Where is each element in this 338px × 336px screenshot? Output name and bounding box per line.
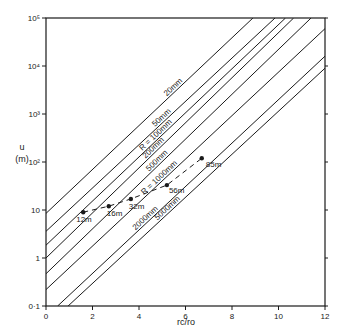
observed-point [107,204,111,208]
plot-frame [46,18,325,306]
y-tick-label: 10² [28,158,40,167]
isoline-group [46,18,325,306]
observed-point [200,156,204,160]
y-axis: 0·111010²10³10⁴10⁵ [28,14,328,311]
y-axis-unit: (m) [15,154,29,164]
isoline [46,18,311,274]
observed-point-label: 32m [129,202,145,211]
observed-point-label: 56m [169,186,185,195]
observed-point-label: 12m [76,215,92,224]
x-tick-label: 4 [137,312,142,321]
y-tick-label: 10⁴ [28,62,41,71]
chart: 12m16m32m56m85m 024681012 0·111010²10³10… [0,0,338,336]
y-tick-label: 10 [31,206,40,215]
observed-point-label: 85m [206,160,222,169]
observed-point [129,197,133,201]
observed-point-label: 16m [107,209,123,218]
x-tick-label: 2 [90,312,95,321]
isoline-label: 20mm [162,76,185,98]
y-tick-label: 10⁵ [28,14,40,23]
observed-point [81,210,85,214]
y-axis-title: u [19,142,24,152]
isoline [58,56,325,306]
x-axis-title: rc/ro [177,317,195,327]
isoline-label: 5000mm [153,194,182,222]
y-tick-label: 0·1 [28,302,40,311]
y-tick-label: 1 [36,254,41,263]
x-tick-label: 8 [230,312,235,321]
x-tick-label: 12 [321,312,330,321]
isoline [46,29,325,290]
chart-svg: 12m16m32m56m85m 024681012 0·111010²10³10… [0,0,338,336]
x-tick-label: 0 [44,312,49,321]
x-tick-label: 10 [274,312,283,321]
y-tick-label: 10³ [28,110,40,119]
